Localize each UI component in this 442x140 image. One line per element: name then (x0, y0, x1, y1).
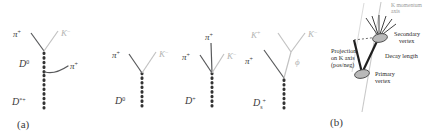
label-secondary-vertex-line1: Secondary (394, 30, 421, 37)
label-phi: ϕ (295, 57, 300, 67)
physics-decay-figure: π+ K− π+ D0 D*+ π+ K− D0 π+ π+ K− D+ (0, 0, 442, 140)
label-projection-line2: on K axis (331, 54, 355, 61)
label-projection-line1: Projection (331, 47, 356, 54)
caption-a: (a) (17, 118, 30, 131)
label-primary-vertex-line1: Primary (375, 70, 396, 77)
label-projection-line3: (pos/neg) (331, 61, 354, 69)
label-k-momentum-axis-line2: axis (391, 8, 400, 14)
label-secondary-vertex-line2: vertex (399, 37, 415, 44)
label-primary-vertex-line2: vertex (375, 77, 391, 84)
caption-b: (b) (330, 116, 343, 129)
label-decay-length: Decay length (385, 52, 419, 59)
figure-canvas: π+ K− π+ D0 D*+ π+ K− D0 π+ π+ K− D+ (0, 0, 442, 140)
